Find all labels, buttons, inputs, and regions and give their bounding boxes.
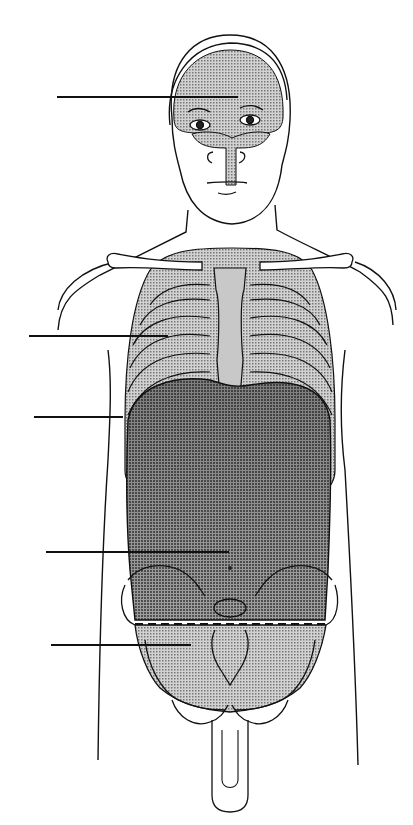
pelvic-cavity xyxy=(135,625,326,712)
navel xyxy=(228,566,232,570)
body-cavities-diagram xyxy=(0,0,413,825)
genitalia-outline xyxy=(212,720,248,812)
sternum xyxy=(214,268,246,398)
